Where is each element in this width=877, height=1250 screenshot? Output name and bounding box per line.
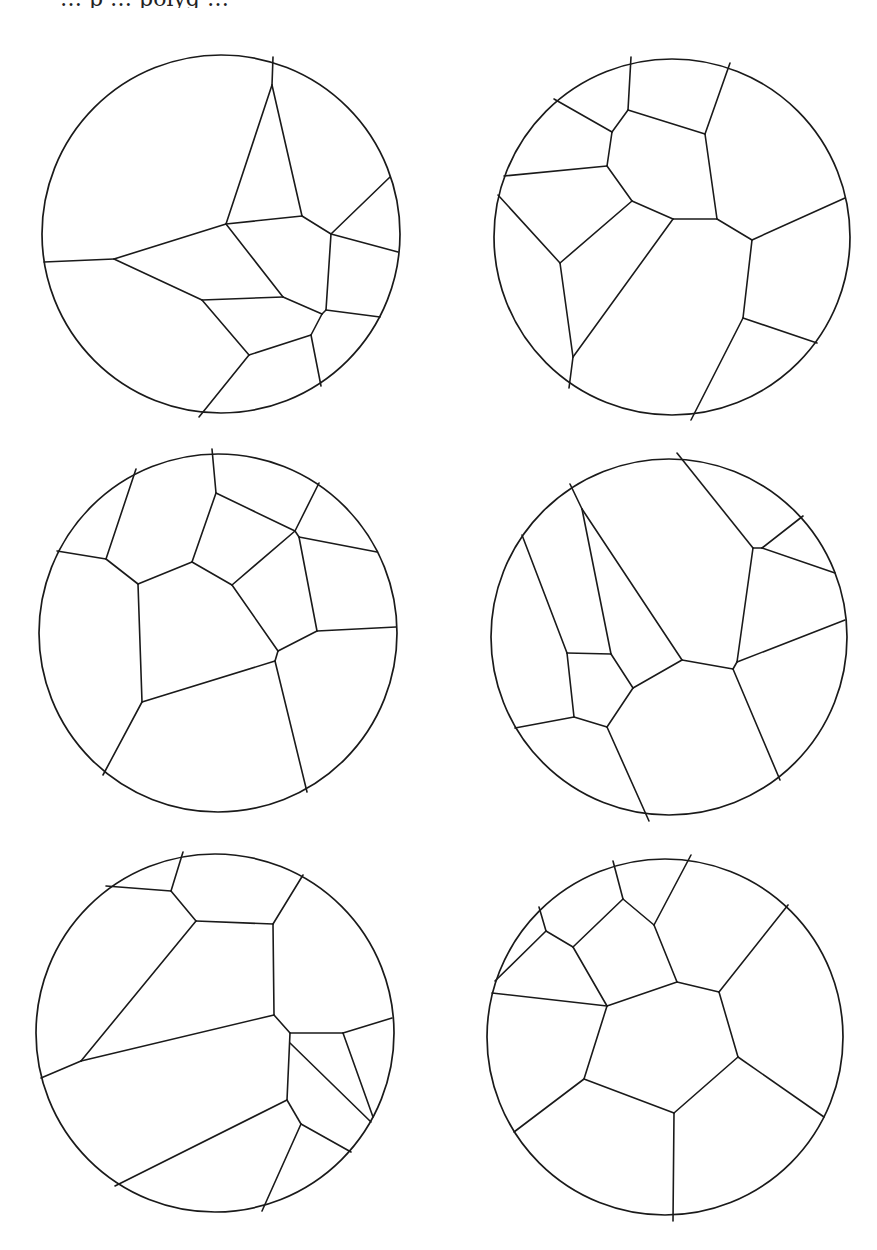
cell-edge xyxy=(299,537,377,552)
cell-edge xyxy=(202,300,249,355)
cell-edge xyxy=(546,931,573,947)
cell-edge xyxy=(171,891,196,921)
cell-edge xyxy=(654,855,691,925)
cell-edge xyxy=(272,85,302,216)
cell-edge xyxy=(212,449,216,493)
cell-edge xyxy=(752,198,845,240)
cell-edge xyxy=(202,297,283,300)
cell-edge xyxy=(717,219,752,240)
voronoi-disks-figure xyxy=(0,0,877,1250)
cell-edge xyxy=(326,310,380,317)
cell-edge xyxy=(554,99,612,132)
cell-edge xyxy=(733,669,780,780)
cell-edge xyxy=(514,1079,584,1132)
cell-edge xyxy=(311,314,322,335)
cell-edge xyxy=(632,201,673,219)
cell-edge xyxy=(495,931,546,981)
cell-edge xyxy=(331,234,398,252)
cell-edge xyxy=(743,240,752,318)
disk-boundary xyxy=(491,459,847,815)
cell-edge xyxy=(733,662,737,669)
cell-edge xyxy=(567,653,611,654)
cell-edge xyxy=(682,660,733,669)
cell-edge xyxy=(331,177,390,234)
cell-edge xyxy=(691,318,743,420)
cell-edge xyxy=(273,875,303,924)
cell-edge xyxy=(103,702,142,775)
cell-edge xyxy=(226,85,272,224)
voronoi-disk-panel xyxy=(39,449,397,812)
cell-edge xyxy=(311,335,321,386)
cell-edge xyxy=(287,1100,301,1124)
cell-edge xyxy=(560,201,632,263)
cell-edge xyxy=(719,905,788,992)
cell-edge xyxy=(573,947,607,1006)
cell-edge xyxy=(673,1113,674,1221)
cell-edge xyxy=(199,355,249,417)
cell-edge xyxy=(560,263,573,357)
cell-edge xyxy=(317,627,396,631)
cell-edge xyxy=(613,861,623,899)
cell-edge xyxy=(192,562,232,585)
cell-edge xyxy=(57,551,106,559)
cell-edge xyxy=(299,537,317,631)
cell-edge xyxy=(705,63,730,134)
cell-edge xyxy=(539,907,546,931)
cell-edge xyxy=(290,1043,371,1122)
cell-edge xyxy=(115,1100,287,1186)
cell-edge xyxy=(504,166,607,176)
cell-edge xyxy=(492,993,607,1006)
cell-edge xyxy=(584,1079,674,1113)
cell-edge xyxy=(612,110,628,132)
cell-edge xyxy=(515,717,574,728)
cell-edge xyxy=(301,1124,351,1152)
cell-edge xyxy=(232,585,278,651)
cell-edge xyxy=(275,651,278,661)
cell-edge xyxy=(737,548,753,662)
cell-edge xyxy=(762,516,803,548)
cell-edge xyxy=(762,548,835,573)
voronoi-disk-panel xyxy=(494,57,850,420)
cell-edge xyxy=(743,318,817,343)
cell-edge xyxy=(216,493,295,531)
cell-edge xyxy=(677,453,753,548)
cell-edge xyxy=(654,925,677,982)
cell-edge xyxy=(278,631,317,651)
cell-edge xyxy=(607,132,612,166)
cell-edge xyxy=(295,531,299,537)
cell-edge xyxy=(274,1015,290,1033)
cell-edge xyxy=(498,195,560,263)
cell-edge xyxy=(196,921,273,924)
cell-edge xyxy=(44,259,114,262)
voronoi-disk-panel xyxy=(491,453,847,821)
cell-edge xyxy=(262,1124,301,1211)
cell-edge xyxy=(81,1015,274,1061)
disk-boundary xyxy=(494,59,850,415)
cell-edge xyxy=(114,224,226,259)
cell-edge xyxy=(343,1033,373,1117)
cell-edge xyxy=(574,717,607,727)
cell-edge xyxy=(567,653,574,717)
cell-edge xyxy=(106,559,138,584)
cell-edge xyxy=(705,134,717,219)
cell-edge xyxy=(142,661,275,702)
cell-edge xyxy=(738,1057,824,1117)
cell-edge xyxy=(737,620,845,662)
cell-edge xyxy=(573,899,623,947)
cell-edge xyxy=(674,1057,738,1113)
cell-edge xyxy=(628,110,705,134)
cell-edge xyxy=(343,1018,392,1033)
cell-edge xyxy=(81,921,196,1061)
cell-edge xyxy=(611,654,633,688)
cell-edge xyxy=(584,1006,607,1079)
cell-edge xyxy=(272,57,273,85)
cell-edge xyxy=(322,310,326,314)
voronoi-disk-panel xyxy=(487,855,843,1221)
cell-edge xyxy=(226,224,283,297)
cell-edge xyxy=(326,234,331,310)
cell-edge xyxy=(633,660,682,688)
cell-edge xyxy=(192,493,216,562)
cell-edge xyxy=(41,1061,81,1078)
cell-edge xyxy=(295,483,319,531)
voronoi-disk-panel xyxy=(36,852,394,1212)
